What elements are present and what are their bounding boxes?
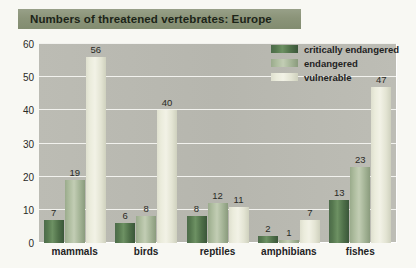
bar-value-label: 56 — [90, 44, 101, 55]
bar-column: 12 — [208, 44, 228, 243]
x-axis-category-label: fishes — [346, 246, 375, 257]
bar-column: 6 — [115, 44, 135, 243]
bar — [44, 220, 64, 243]
bar — [208, 203, 228, 243]
page-title: Numbers of threatened vertebrates: Europ… — [30, 13, 272, 25]
bar-column: 40 — [157, 44, 177, 243]
bar-value-label: 11 — [234, 194, 244, 205]
bar-value-label: 7 — [51, 207, 56, 218]
y-axis-tick-label: 30 — [4, 138, 34, 149]
bar-value-label: 12 — [212, 190, 223, 201]
y-axis-tick-label: 40 — [4, 105, 34, 116]
bar — [371, 87, 391, 243]
bar — [65, 180, 85, 243]
y-axis: 0102030405060 — [0, 44, 34, 243]
x-axis-category-label: reptiles — [200, 246, 236, 257]
legend-item-vulnerable: vulnerable — [271, 71, 401, 83]
y-axis-tick-label: 10 — [4, 204, 34, 215]
bar — [350, 167, 370, 243]
chart-title-bar: Numbers of threatened vertebrates: Europ… — [18, 9, 301, 29]
y-axis-tick-label: 60 — [4, 39, 34, 50]
bar-column: 8 — [187, 44, 207, 243]
chart-legend: critically endangered endangered vulnera… — [271, 43, 401, 85]
bar-column: 19 — [65, 44, 85, 243]
legend-item-label: endangered — [304, 58, 358, 69]
bar-value-label: 13 — [334, 187, 345, 198]
bar-value-label: 1 — [286, 227, 291, 238]
x-axis-labels: mammalsbirdsreptilesamphibiansfishes — [39, 246, 396, 266]
chart-figure: Numbers of threatened vertebrates: Europ… — [0, 0, 416, 268]
bar-value-label: 23 — [355, 154, 366, 165]
legend-item-endangered: endangered — [271, 57, 401, 69]
bar-column: 11 — [229, 44, 249, 243]
bar — [329, 200, 349, 243]
legend-item-critically-endangered: critically endangered — [271, 43, 401, 55]
bar — [157, 110, 177, 243]
bar — [86, 57, 106, 243]
legend-item-label: critically endangered — [304, 44, 399, 55]
bar-value-label: 40 — [162, 97, 173, 108]
bar-value-label: 19 — [69, 167, 80, 178]
bar — [229, 207, 249, 243]
bar — [115, 223, 135, 243]
x-axis-category-label: mammals — [52, 246, 98, 257]
x-axis-category-label: amphibians — [261, 246, 317, 257]
bar — [136, 216, 156, 243]
legend-item-label: vulnerable — [304, 72, 352, 83]
legend-swatch-icon — [271, 59, 298, 67]
x-axis-category-label: birds — [134, 246, 158, 257]
bar-value-label: 6 — [122, 210, 127, 221]
bar-group: 81211 — [187, 44, 249, 243]
bar-column: 56 — [86, 44, 106, 243]
bar — [300, 220, 320, 243]
bar-column: 7 — [44, 44, 64, 243]
y-axis-tick-label: 0 — [4, 238, 34, 249]
bar — [279, 240, 299, 243]
bar-value-label: 8 — [194, 203, 199, 214]
bar — [258, 236, 278, 243]
y-axis-tick-label: 20 — [4, 171, 34, 182]
bar-group: 71956 — [44, 44, 106, 243]
legend-swatch-icon — [271, 45, 298, 53]
bar-group: 6840 — [115, 44, 177, 243]
y-axis-tick-label: 50 — [4, 72, 34, 83]
bar — [187, 216, 207, 243]
legend-swatch-icon — [271, 73, 298, 81]
bar-value-label: 2 — [265, 223, 270, 234]
bar-value-label: 8 — [143, 203, 148, 214]
bar-value-label: 7 — [307, 207, 312, 218]
bar-column: 8 — [136, 44, 156, 243]
